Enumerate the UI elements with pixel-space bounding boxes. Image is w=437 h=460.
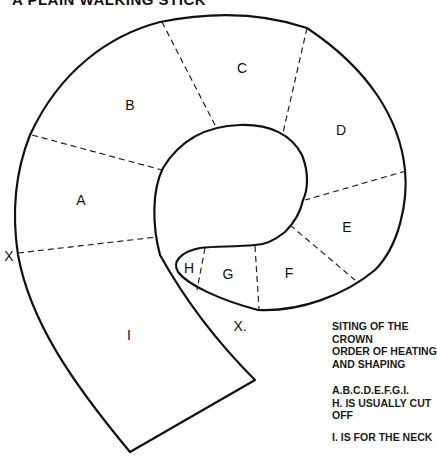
- marker-x-bottom: X.: [233, 318, 246, 334]
- divider-a-b: [32, 135, 162, 170]
- divider-b-c: [162, 22, 216, 127]
- note-line-1: SITING OF THE: [332, 320, 437, 333]
- note-line-6: H. IS USUALLY CUT: [332, 397, 437, 410]
- divider-d-e: [305, 171, 406, 200]
- segment-label-h: H: [184, 260, 194, 276]
- divider-f-g: [255, 246, 259, 309]
- note-line-7: OFF: [332, 409, 437, 422]
- segment-label-e: E: [342, 219, 351, 235]
- segment-label-g: G: [223, 266, 234, 282]
- segment-label-f: F: [285, 265, 294, 281]
- note-line-2: CROWN: [332, 333, 437, 346]
- divider-a-i: [18, 237, 157, 253]
- notes-panel: SITING OF THE CROWN ORDER OF HEATING AND…: [332, 320, 437, 443]
- divider-c-d: [283, 28, 307, 133]
- segment-label-d: D: [336, 122, 346, 138]
- marker-x-left: X: [4, 248, 13, 264]
- segment-label-i: I: [127, 327, 131, 343]
- note-line-3: ORDER OF HEATING: [332, 345, 437, 358]
- note-line-8: I. IS FOR THE NECK: [332, 431, 437, 444]
- segment-label-b: B: [125, 97, 134, 113]
- segment-label-a: A: [76, 192, 85, 208]
- note-line-5: A.B.C.D.E.F.G.I.: [332, 384, 437, 397]
- divider-g-h: [197, 248, 205, 290]
- note-line-4: AND SHAPING: [332, 358, 437, 371]
- segment-label-c: C: [237, 60, 247, 76]
